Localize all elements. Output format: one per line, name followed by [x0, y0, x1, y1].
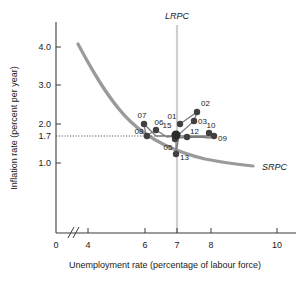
data-label-02: 02 — [201, 99, 210, 108]
srpc-label: SRPC — [262, 162, 288, 172]
y-axis-title: Inflation rate (percent per year) — [9, 66, 19, 190]
data-label-12: 12 — [190, 127, 199, 136]
phillips-curve-chart: 4.0 3.0 2.0 1.7 1.0 0 4 6 7 8 10 Unemplo… — [0, 0, 306, 283]
data-label-01: 01 — [168, 112, 177, 121]
y-tick-label-1-7: 1.7 — [38, 131, 51, 141]
x-tick-label-4: 4 — [85, 240, 90, 250]
data-label-09: 09 — [218, 134, 227, 143]
x-tick-label-6: 6 — [142, 240, 147, 250]
data-point-02[interactable] — [194, 109, 200, 115]
data-point-15[interactable] — [171, 130, 180, 139]
y-tick-label-3: 3.0 — [38, 80, 51, 90]
x-tick-label-8: 8 — [208, 240, 213, 250]
data-point-10[interactable] — [206, 130, 212, 136]
data-point-03[interactable] — [191, 118, 197, 124]
data-point-01[interactable] — [177, 121, 183, 127]
data-label-07: 07 — [138, 111, 147, 120]
x-tick-label-0: 0 — [53, 240, 58, 250]
y-tick-label-1: 1.0 — [38, 158, 51, 168]
y-tick-label-2: 2.0 — [38, 119, 51, 129]
data-label-05: 05 — [164, 143, 173, 152]
x-axis-title: Unemployment rate (percentage of labour … — [69, 260, 261, 270]
data-point-13[interactable] — [173, 151, 179, 157]
data-point-08[interactable] — [144, 133, 150, 139]
data-label-15: 15 — [163, 121, 172, 130]
x-tick-label-7: 7 — [174, 240, 179, 250]
data-label-10: 10 — [207, 121, 216, 130]
y-tick-label-4: 4.0 — [38, 42, 51, 52]
data-label-13: 13 — [180, 153, 189, 162]
chart-canvas: 4.0 3.0 2.0 1.7 1.0 0 4 6 7 8 10 Unemplo… — [0, 0, 306, 283]
data-label-08: 08 — [135, 127, 144, 136]
lrpc-label: LRPC — [165, 11, 190, 21]
data-point-06[interactable] — [153, 127, 159, 133]
x-tick-label-10: 10 — [272, 240, 282, 250]
